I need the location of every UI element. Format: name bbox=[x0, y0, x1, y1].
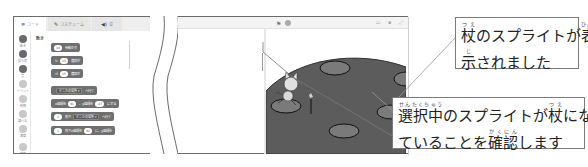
block-text: 度回す bbox=[71, 71, 80, 76]
block-text: にする bbox=[107, 101, 116, 106]
block-text: 、y座標を bbox=[79, 101, 93, 106]
callout-line: 示じされました bbox=[461, 48, 573, 75]
block-text: 歩動かす bbox=[65, 45, 77, 50]
ruby-word: 選択中せんたくちゅう bbox=[398, 107, 443, 125]
category-dot-icon bbox=[19, 50, 27, 58]
block-input[interactable]: 15 bbox=[60, 58, 68, 64]
block-move-steps[interactable]: 10 歩動かす bbox=[51, 43, 80, 52]
kanji: 杖 bbox=[461, 27, 476, 45]
category-motion[interactable]: 動き bbox=[17, 35, 28, 48]
code-icon: ≡ bbox=[21, 21, 25, 27]
ruby-word: 杖つえ bbox=[548, 107, 563, 125]
category-dot-icon bbox=[19, 65, 27, 73]
furigana: せんたくちゅう bbox=[398, 101, 443, 107]
tab-code[interactable]: ≡ コード bbox=[14, 17, 46, 31]
category-label: 演算 bbox=[17, 134, 28, 138]
category-control[interactable]: 制御 bbox=[17, 95, 28, 108]
furigana: つえ bbox=[461, 21, 476, 27]
code-area-scrollbar[interactable] bbox=[262, 53, 263, 71]
turn-left-icon: ↺ bbox=[55, 72, 58, 76]
block-text: に、y座標を bbox=[95, 128, 112, 133]
furigana: じ bbox=[461, 48, 476, 54]
furigana: ひょう bbox=[581, 21, 588, 27]
ruby-word: 確認かくにん bbox=[488, 134, 518, 152]
category-events[interactable]: イベント bbox=[17, 80, 28, 93]
block-glide-to-xy[interactable]: 1 秒でx座標を 61 に、y座標を bbox=[51, 126, 115, 135]
block-input[interactable]: 61 bbox=[68, 101, 76, 107]
callout-line: ていることを確認かくにんします bbox=[398, 128, 579, 155]
block-text: x座標を bbox=[55, 101, 66, 106]
stage-scene bbox=[266, 29, 406, 154]
block-input[interactable]: 61 bbox=[84, 128, 92, 134]
block-text: 度回す bbox=[71, 58, 80, 63]
stage-panel: ⚑ ▭ ▪ ⤢ bbox=[178, 16, 408, 154]
category-looks[interactable]: 見た目 bbox=[17, 50, 28, 63]
callout-text: されました bbox=[476, 54, 551, 72]
tab-label: 音 bbox=[109, 21, 113, 27]
block-turn-right[interactable]: ↻ 15 度回す bbox=[51, 56, 83, 65]
tab-label: コード bbox=[27, 21, 39, 27]
category-label: 変数 bbox=[17, 152, 28, 154]
block-glide-to[interactable]: 1 秒で どこかの場所 ▾ へ行く bbox=[51, 112, 114, 121]
brush-icon: ✎ bbox=[54, 21, 58, 27]
ruby-word: 示じ bbox=[461, 54, 476, 72]
block-input[interactable]: 1 bbox=[54, 128, 62, 134]
block-dropdown[interactable]: どこかの場所 ▾ bbox=[73, 114, 99, 120]
stage-header: ⚑ ▭ ▪ ⤢ bbox=[178, 17, 408, 29]
stop-icon[interactable] bbox=[285, 20, 291, 26]
category-sensing[interactable]: 調べる bbox=[17, 110, 28, 123]
category-label: 動き bbox=[17, 44, 28, 48]
stage-canvas[interactable] bbox=[266, 29, 406, 154]
callout-text: のスプライトが bbox=[476, 27, 581, 45]
block-dropdown[interactable]: どこかの場所 ▾ bbox=[56, 88, 82, 94]
category-operators[interactable]: 演算 bbox=[17, 125, 28, 138]
callout-text: ていることを bbox=[398, 134, 488, 152]
category-label: イベント bbox=[17, 89, 28, 93]
block-input[interactable]: 10 bbox=[54, 45, 62, 51]
callout-line: 杖つえのスプライトが表ひょう bbox=[461, 21, 573, 48]
torn-edge-divider bbox=[150, 16, 180, 154]
palette-scrollbar[interactable] bbox=[129, 41, 130, 69]
category-dot-icon bbox=[19, 80, 27, 88]
callout-text: のスプライトが bbox=[443, 107, 548, 125]
kanji: 確認 bbox=[488, 134, 518, 152]
ruby-word: 杖つえ bbox=[461, 27, 476, 45]
category-label: 見た目 bbox=[17, 59, 28, 63]
block-palette: 動き 10 歩動かす ↻ 15 度回す ↺ 15 度回す どこかの場所 ▾ へ行… bbox=[32, 31, 165, 154]
green-flag-icon[interactable]: ⚑ bbox=[276, 20, 281, 27]
stage-view-toggle-icons[interactable]: ▭ ▪ ⤢ bbox=[376, 19, 406, 26]
block-input[interactable]: 1 bbox=[54, 114, 62, 120]
block-text: へ行く bbox=[102, 114, 111, 119]
category-sound[interactable]: 音 bbox=[17, 65, 28, 78]
tab-costumes[interactable]: ✎ コスチューム bbox=[48, 17, 90, 31]
callout-text: します bbox=[518, 134, 563, 152]
callout-sprite-displayed: 杖つえのスプライトが表ひょう 示じされました bbox=[455, 17, 579, 69]
category-dot-icon bbox=[19, 143, 27, 151]
callout-selected-sprite: 選択中せんたくちゅうのスプライトが杖つえになっ ていることを確認かくにんします bbox=[392, 97, 585, 149]
block-go-to[interactable]: どこかの場所 ▾ へ行く bbox=[51, 86, 97, 95]
block-input[interactable]: 15 bbox=[60, 71, 68, 77]
furigana: つえ bbox=[548, 101, 563, 107]
speaker-icon: ◀) bbox=[101, 21, 107, 27]
tab-label: コスチューム bbox=[60, 21, 84, 27]
category-variables[interactable]: 変数 bbox=[17, 143, 28, 154]
palette-section-title: 動き bbox=[36, 35, 44, 41]
ruby-word: 表ひょう bbox=[581, 27, 588, 45]
category-dot-icon bbox=[19, 110, 27, 118]
block-input[interactable]: -47 bbox=[95, 101, 104, 107]
category-dot-icon bbox=[19, 125, 27, 133]
tab-sounds[interactable]: ◀) 音 bbox=[92, 17, 122, 31]
category-label: 調べる bbox=[17, 119, 28, 123]
block-go-to-xy[interactable]: x座標を 61 、y座標を -47 にする bbox=[51, 99, 119, 108]
category-label: 制御 bbox=[17, 104, 28, 108]
block-text: へ行く bbox=[85, 88, 94, 93]
category-dot-icon bbox=[19, 35, 27, 43]
category-dot-icon bbox=[19, 95, 27, 103]
block-turn-left[interactable]: ↺ 15 度回す bbox=[51, 69, 83, 78]
kanji: 表 bbox=[581, 27, 588, 45]
category-label: 音 bbox=[17, 74, 28, 78]
kanji: 示 bbox=[461, 54, 476, 72]
callout-line: 選択中せんたくちゅうのスプライトが杖つえになっ bbox=[398, 101, 579, 128]
furigana: かくにん bbox=[488, 128, 518, 134]
kanji: 選択中 bbox=[398, 107, 443, 125]
